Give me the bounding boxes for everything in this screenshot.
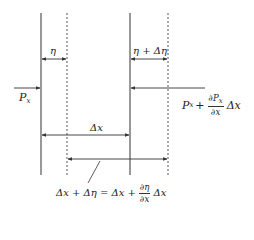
equation-leader-line [88,161,100,183]
plus-sign: + [195,100,204,111]
px-plus-sub: x [189,102,193,109]
fraction-denominator: ∂x [140,194,149,204]
fraction-numerator: ∂Px [208,94,224,107]
deta-dx-fraction: ∂η ∂x [139,183,151,203]
fraction-denominator: ∂x [211,107,220,117]
eta-label: η [50,46,56,56]
numerator-sub: x [219,97,223,105]
delta-x-label: Δx [90,123,103,133]
equation-lhs: Δx + Δη = Δx + [56,188,136,198]
px-plus-base: P [182,100,189,111]
numerator-text: ∂P [209,93,219,103]
delta-x-term: Δx [227,100,241,111]
equation-tail: Δx [153,188,166,198]
bottom-equation: Δx + Δη = Δx + ∂η ∂x Δx [56,183,166,203]
px-label: Px [19,92,30,105]
px-sub: x [26,97,30,105]
dpx-dx-fraction: ∂Px ∂x [208,94,224,117]
px-plus-gradient-label: Px + ∂Px ∂x Δx [182,94,241,117]
fraction-numerator: ∂η [139,183,151,194]
eta-plus-delta-eta-label: η + Δη [133,46,167,56]
